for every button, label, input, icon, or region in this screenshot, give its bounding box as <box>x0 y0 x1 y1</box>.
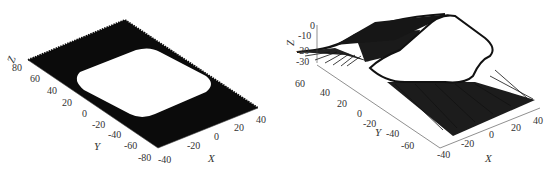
left-y-label: Y <box>94 140 102 152</box>
right-plot-canvas: 0 -10 -20 -30 Z 60 40 20 0 -20 -40 -60 Y… <box>275 0 550 173</box>
left-y-tick: 0 <box>82 108 87 119</box>
right-x-tick: -40 <box>437 149 450 160</box>
left-y-tick: -60 <box>124 140 137 151</box>
left-y-tick: -40 <box>108 129 121 140</box>
left-x-label: X <box>207 152 216 164</box>
right-z-tick: -20 <box>296 45 309 56</box>
right-y-tick: 20 <box>337 98 347 109</box>
right-x-tick: 0 <box>489 129 494 140</box>
right-x-tick: 40 <box>533 115 543 126</box>
left-y-tick: -20 <box>92 119 105 130</box>
right-y-label: Y <box>375 126 383 138</box>
left-surface-plot: Z 80 60 40 20 0 -20 -40 -60 -80 Y -40 -2… <box>0 0 275 173</box>
left-x-tick: -20 <box>187 140 200 151</box>
right-y-tick: 0 <box>357 108 362 119</box>
right-y-tick: -40 <box>386 128 399 139</box>
left-x-tick: 40 <box>256 114 266 125</box>
right-y-tick: 60 <box>295 78 305 89</box>
left-x-tick: 0 <box>214 131 219 142</box>
right-x-tick: -20 <box>461 138 474 149</box>
left-y-tick: 40 <box>47 85 57 96</box>
left-y-tick: 60 <box>30 73 40 84</box>
right-surface-plot: 0 -10 -20 -30 Z 60 40 20 0 -20 -40 -60 Y… <box>275 0 550 173</box>
right-x-tick: 20 <box>511 122 521 133</box>
right-y-tick: -60 <box>401 140 414 151</box>
left-plot-canvas: Z 80 60 40 20 0 -20 -40 -60 -80 Y -40 -2… <box>0 0 275 173</box>
left-y-tick: 20 <box>62 97 72 108</box>
right-z-label: Z <box>284 39 296 46</box>
left-y-tick: -80 <box>138 152 151 163</box>
right-z-tick: -10 <box>298 30 311 41</box>
left-x-tick: -40 <box>158 154 171 165</box>
right-y-tick: 40 <box>320 87 330 98</box>
right-z-tick: -30 <box>296 56 309 67</box>
right-x-label: X <box>484 152 493 164</box>
left-y-tick: 80 <box>12 62 22 73</box>
left-x-tick: 20 <box>234 122 244 133</box>
